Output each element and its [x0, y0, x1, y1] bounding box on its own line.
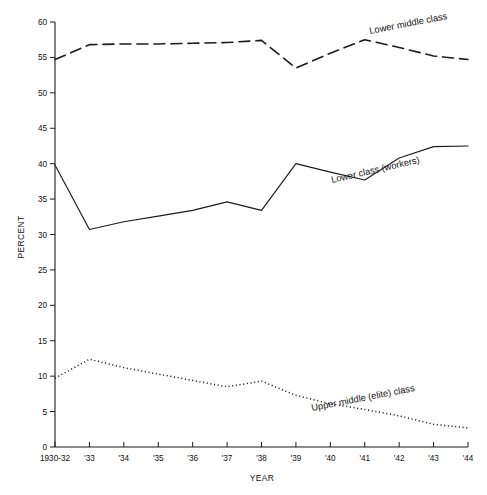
y-tick-label: 20: [38, 301, 48, 310]
x-tick-label: '41: [359, 454, 370, 463]
x-axis-title: YEAR: [250, 473, 274, 483]
x-axis-ticks: 1930-32'33'34'35'36'37'38'39'40'41'42'43…: [40, 442, 474, 463]
y-tick-label: 10: [38, 372, 48, 381]
line-chart: 051015202530354045505560 1930-32'33'34'3…: [0, 0, 487, 495]
x-tick-label: '38: [256, 454, 267, 463]
series-label-annotation: Lower class (workers): [330, 155, 420, 185]
x-tick-label: '43: [428, 454, 439, 463]
x-tick-label: '33: [84, 454, 95, 463]
y-tick-label: 55: [38, 53, 48, 62]
x-tick-label: '42: [394, 454, 405, 463]
y-tick-label: 15: [38, 337, 48, 346]
x-tick-label: 1930-32: [40, 454, 70, 463]
x-tick-label: '39: [291, 454, 302, 463]
y-tick-label: 50: [38, 89, 48, 98]
y-axis-title: PERCENT: [16, 216, 26, 259]
y-tick-label: 5: [42, 408, 47, 417]
series-line-dashed: [55, 40, 468, 68]
chart-container: 051015202530354045505560 1930-32'33'34'3…: [0, 0, 487, 495]
x-tick-label: '34: [118, 454, 129, 463]
x-tick-label: '36: [187, 454, 198, 463]
x-tick-label: '40: [325, 454, 336, 463]
y-tick-label: 35: [38, 195, 48, 204]
x-tick-label: '44: [463, 454, 474, 463]
y-tick-label: 60: [38, 18, 48, 27]
chart-axes: [55, 22, 468, 447]
y-axis-ticks: 051015202530354045505560: [38, 18, 55, 452]
y-tick-label: 0: [42, 443, 47, 452]
series-annotations: Lower middle classLower class (workers)U…: [310, 11, 448, 413]
y-tick-label: 45: [38, 124, 48, 133]
chart-series: [55, 40, 468, 428]
series-label-annotation: Lower middle class: [368, 11, 448, 36]
y-tick-label: 40: [38, 160, 48, 169]
series-label-annotation: Upper middle (elite) class: [310, 383, 415, 413]
x-tick-label: '37: [222, 454, 233, 463]
y-tick-label: 30: [38, 231, 48, 240]
y-tick-label: 25: [38, 266, 48, 275]
x-tick-label: '35: [153, 454, 164, 463]
